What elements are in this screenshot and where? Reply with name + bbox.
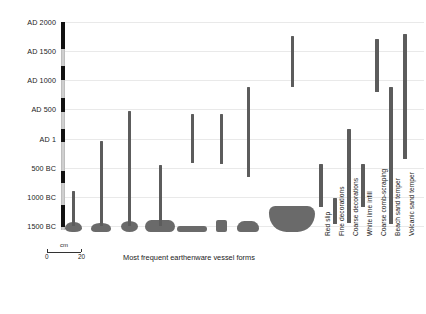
attribute-range-bar-4 (361, 164, 365, 207)
vessel-range-bar-3 (128, 111, 131, 226)
scale-bar-max-label: 20 (78, 253, 85, 260)
attribute-label-7: Volcanic sand temper (408, 172, 415, 236)
y-tick-label-6: 1000 BC (4, 192, 56, 201)
gridline-3 (62, 109, 424, 110)
scale-bar-tick-start (47, 249, 48, 252)
y-tick-label-0: AD 2000 (4, 18, 56, 27)
vessel-range-bar-7 (247, 87, 250, 177)
attribute-range-bar-3 (347, 129, 351, 223)
attribute-range-bar-5 (375, 39, 379, 91)
chronology-chart: AD 2000AD 1500AD 1000AD 500AD 1500 BC100… (0, 0, 426, 314)
y-tick-label-2: AD 1000 (4, 76, 56, 85)
attribute-range-bar-7 (403, 34, 407, 159)
attribute-label-1: Red slip (324, 212, 331, 236)
scale-bar-line (47, 252, 81, 253)
y-axis-column (61, 22, 65, 230)
gridline-4 (62, 139, 424, 140)
attribute-range-bar-1 (319, 164, 323, 207)
y-tick-label-3: AD 500 (4, 105, 56, 114)
y-axis-segment-0 (61, 22, 65, 49)
vessel-range-bar-1 (72, 191, 75, 226)
vessel-group-caption: Most frequent earthenware vessel forms (123, 253, 255, 262)
y-tick-label-5: 500 BC (4, 163, 56, 172)
attribute-label-3: Coarse decorations (352, 178, 359, 236)
vessel-range-bar-5 (191, 114, 194, 164)
vessel-form-7 (237, 221, 259, 232)
y-axis-segment-5 (61, 205, 65, 227)
vessel-range-bar-4 (159, 165, 162, 226)
attribute-label-5: Coarse comb-scraping (380, 169, 387, 236)
attribute-label-2: Fine decorations (338, 186, 345, 236)
vessel-range-bar-8 (291, 36, 294, 87)
gridline-5 (62, 168, 424, 169)
scale-bar-min-label: 0 (45, 253, 49, 260)
y-tick-label-7: 1500 BC (4, 222, 56, 231)
vessel-form-6 (216, 220, 227, 232)
vessel-range-bar-2 (100, 141, 103, 226)
y-tick-label-1: AD 1500 (4, 47, 56, 56)
y-axis-segment-1 (61, 66, 65, 80)
vessel-range-bar-6 (220, 114, 223, 164)
y-tick-label-4: AD 1 (4, 134, 56, 143)
scale-bar-unit-label: cm (37, 242, 91, 248)
y-axis-segment-2 (61, 98, 65, 112)
gridline-1 (62, 51, 424, 52)
gridline-0 (62, 22, 424, 23)
attribute-label-4: White lime infill (366, 191, 373, 236)
attribute-label-6: Beach sand temper (394, 178, 401, 236)
vessel-form-5 (177, 226, 207, 232)
y-axis-segment-4 (61, 171, 65, 183)
vessel-form-8 (269, 206, 315, 232)
attribute-range-bar-6 (389, 87, 393, 224)
attribute-range-bar-2 (333, 198, 337, 224)
y-axis-segment-3 (61, 129, 65, 142)
gridline-2 (62, 80, 424, 81)
scale-bar-tick-end (81, 249, 82, 252)
